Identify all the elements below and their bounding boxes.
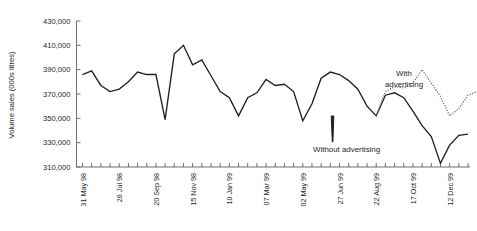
x-axis-tick-label: 22 Aug 99 [372,173,381,205]
x-axis-tick-label: 07 Mar 99 [262,173,271,205]
x-axis-tick-labels: 31 May 9826 Jul 9820 Sep 9815 Nov 9810 J… [79,173,455,207]
y-axis-tick-label: 410,000 [43,41,70,50]
series-without-advertising-line [83,45,469,163]
x-axis-tick-label: 15 Nov 98 [189,173,198,206]
y-axis-tick-label: 430,000 [43,17,70,26]
y-axis-tick-label: 330,000 [43,138,70,147]
y-axis-tick-label: 370,000 [43,90,70,99]
annotation-with-advertising-line1: With [396,69,412,78]
y-axis-tick-label: 390,000 [43,65,70,74]
annotation-with-advertising-line2: advertising [385,80,423,89]
x-axis-tick-label: 27 Jun 99 [336,173,345,205]
x-axis-tick-label: 17 Oct 99 [409,173,418,204]
x-axis-tick-label: 26 Jul 98 [115,173,124,202]
y-axis-title: Volume sales (000s litres) [7,51,16,138]
y-axis-tick-label: 310,000 [43,163,70,172]
x-axis-tick-label: 20 Sep 98 [152,173,161,206]
leader-arrow-up-icon [331,116,334,142]
x-axis-ticks [83,163,469,167]
x-axis-tick-label: 10 Jan 99 [225,173,234,205]
x-axis-tick-label: 31 May 98 [79,173,88,207]
x-axis-tick-label: 12 Dec 99 [446,173,455,206]
y-axis-ticks [77,21,81,167]
series-with-advertising-line [376,70,477,116]
y-axis-tick-label: 350,000 [43,114,70,123]
volume-sales-line-chart: Volume sales (000s litres) 310,000330,00… [0,0,477,231]
x-axis-tick-label: 02 May 99 [299,173,308,207]
chart-canvas: Volume sales (000s litres) 310,000330,00… [0,0,477,231]
y-axis-tick-labels: 310,000330,000350,000370,000390,000410,0… [43,17,70,172]
annotation-without-advertising: Without advertising [313,145,380,154]
